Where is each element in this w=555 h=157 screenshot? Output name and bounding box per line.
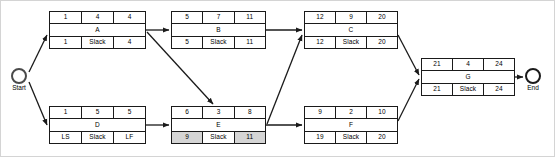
terminal-label-start: Start bbox=[11, 85, 27, 92]
activity-label: D bbox=[50, 119, 145, 130]
edge-e-to-c bbox=[267, 35, 302, 124]
cell-late_start: 21 bbox=[422, 84, 452, 95]
node-name-row: G bbox=[422, 70, 514, 83]
network-diagram-canvas: 144A1Slack45711B5Slack1112920C12Slack201… bbox=[0, 0, 555, 157]
activity-label: B bbox=[172, 24, 265, 35]
circle-icon bbox=[11, 68, 27, 84]
node-top-row: 12920 bbox=[305, 12, 397, 23]
cell-duration: 3 bbox=[202, 107, 233, 118]
node-bottom-row: 19Slack20 bbox=[305, 132, 397, 143]
activity-node-d[interactable]: 155DLSSlackLF bbox=[49, 106, 146, 144]
activity-node-f[interactable]: 9210F19Slack20 bbox=[304, 106, 398, 144]
node-name-row: B bbox=[172, 23, 265, 36]
cell-duration: 4 bbox=[81, 12, 113, 23]
cell-early_finish: 5 bbox=[113, 107, 145, 118]
node-name-row: C bbox=[305, 23, 397, 36]
cell-late_start: 9 bbox=[172, 132, 202, 143]
node-bottom-row: 1Slack4 bbox=[50, 37, 145, 48]
cell-slack: Slack bbox=[335, 132, 366, 143]
cell-late_start: 1 bbox=[50, 37, 81, 48]
cell-slack: Slack bbox=[452, 84, 483, 95]
activity-node-e[interactable]: 638E9Slack11 bbox=[171, 106, 266, 144]
activity-node-b[interactable]: 5711B5Slack11 bbox=[171, 11, 266, 49]
cell-slack: Slack bbox=[335, 37, 366, 48]
cell-late_finish: LF bbox=[113, 132, 145, 143]
activity-node-c[interactable]: 12920C12Slack20 bbox=[304, 11, 398, 49]
edge-c-to-g bbox=[398, 35, 419, 75]
edge-start-to-a bbox=[29, 35, 47, 72]
cell-early_start: 1 bbox=[50, 107, 81, 118]
activity-label: E bbox=[172, 119, 265, 130]
cell-late_finish: 20 bbox=[366, 37, 397, 48]
node-bottom-row: 12Slack20 bbox=[305, 37, 397, 48]
cell-early_start: 12 bbox=[305, 12, 335, 23]
cell-late_finish: 24 bbox=[483, 84, 514, 95]
edge-f-to-g bbox=[398, 79, 419, 121]
activity-label: G bbox=[422, 71, 514, 82]
cell-late_finish: 11 bbox=[234, 132, 265, 143]
activity-label: F bbox=[305, 119, 397, 130]
cell-slack: Slack bbox=[202, 132, 233, 143]
cell-early_finish: 4 bbox=[113, 12, 145, 23]
cell-early_start: 9 bbox=[305, 107, 335, 118]
cell-early_finish: 11 bbox=[234, 12, 265, 23]
node-top-row: 144 bbox=[50, 12, 145, 23]
node-top-row: 9210 bbox=[305, 107, 397, 118]
terminal-label-end: End bbox=[525, 85, 541, 92]
node-top-row: 21424 bbox=[422, 59, 514, 70]
terminal-node-end[interactable]: End bbox=[525, 68, 541, 92]
cell-duration: 5 bbox=[81, 107, 113, 118]
node-top-row: 638 bbox=[172, 107, 265, 118]
cell-late_finish: 20 bbox=[366, 132, 397, 143]
cell-early_finish: 10 bbox=[366, 107, 397, 118]
cell-late_start: 19 bbox=[305, 132, 335, 143]
cell-duration: 9 bbox=[335, 12, 366, 23]
cell-early_start: 5 bbox=[172, 12, 202, 23]
node-bottom-row: LSSlackLF bbox=[50, 132, 145, 143]
cell-early_finish: 24 bbox=[483, 59, 514, 70]
cell-late_start: 12 bbox=[305, 37, 335, 48]
node-bottom-row: 21Slack24 bbox=[422, 84, 514, 95]
cell-early_start: 6 bbox=[172, 107, 202, 118]
cell-duration: 2 bbox=[335, 107, 366, 118]
node-name-row: F bbox=[305, 118, 397, 131]
cell-slack: Slack bbox=[81, 37, 113, 48]
cell-late_start: LS bbox=[50, 132, 81, 143]
cell-late_finish: 11 bbox=[234, 37, 265, 48]
activity-node-g[interactable]: 21424G21Slack24 bbox=[421, 58, 515, 96]
node-bottom-row: 9Slack11 bbox=[172, 132, 265, 143]
circle-icon bbox=[525, 68, 541, 84]
node-name-row: D bbox=[50, 118, 145, 131]
edge-start-to-d bbox=[29, 82, 47, 125]
cell-late_start: 5 bbox=[172, 37, 202, 48]
cell-slack: Slack bbox=[81, 132, 113, 143]
cell-late_finish: 4 bbox=[113, 37, 145, 48]
cell-slack: Slack bbox=[202, 37, 233, 48]
node-bottom-row: 5Slack11 bbox=[172, 37, 265, 48]
cell-early_start: 1 bbox=[50, 12, 81, 23]
node-top-row: 5711 bbox=[172, 12, 265, 23]
node-top-row: 155 bbox=[50, 107, 145, 118]
cell-duration: 7 bbox=[202, 12, 233, 23]
activity-label: C bbox=[305, 24, 397, 35]
cell-early_finish: 8 bbox=[234, 107, 265, 118]
activity-node-a[interactable]: 144A1Slack4 bbox=[49, 11, 146, 49]
terminal-node-start[interactable]: Start bbox=[11, 68, 27, 92]
activity-label: A bbox=[50, 24, 145, 35]
node-name-row: E bbox=[172, 118, 265, 131]
node-name-row: A bbox=[50, 23, 145, 36]
cell-duration: 4 bbox=[452, 59, 483, 70]
cell-early_start: 21 bbox=[422, 59, 452, 70]
cell-early_finish: 20 bbox=[366, 12, 397, 23]
